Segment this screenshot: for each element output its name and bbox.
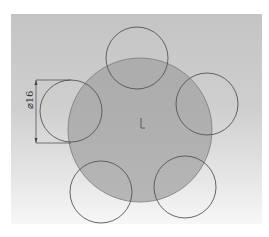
sketch-drawing: ⌀16 [0,0,269,237]
arrow-top-icon [35,80,38,85]
dimension-label[interactable]: ⌀16 [24,91,35,110]
arrow-bottom-icon [35,138,38,143]
diameter-dimension[interactable]: ⌀16 [24,80,71,143]
